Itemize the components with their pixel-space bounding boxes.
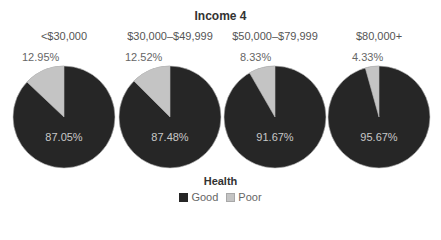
- pie-1: <$30,00012.95%87.05%: [13, 30, 115, 168]
- good-swatch-icon: [179, 193, 188, 202]
- good-value-label: 91.67%: [256, 131, 294, 143]
- legend-label-good: Good: [191, 191, 218, 203]
- legend: Good Poor: [0, 191, 441, 203]
- poor-value-label: 8.33%: [240, 51, 271, 63]
- legend-label-poor: Poor: [238, 191, 261, 203]
- poor-value-label: 12.95%: [22, 51, 60, 63]
- good-value-label: 87.48%: [151, 131, 189, 143]
- legend-item-good: Good: [179, 191, 218, 203]
- legend-title: Health: [0, 175, 441, 187]
- category-label: $80,000+: [356, 30, 402, 42]
- category-label: <$30,000: [41, 30, 87, 42]
- category-label: $50,000–$79,999: [232, 30, 318, 42]
- poor-swatch-icon: [226, 193, 235, 202]
- pie-4: $80,000+4.33%95.67%: [328, 30, 430, 168]
- poor-value-label: 4.33%: [352, 51, 383, 63]
- category-label: $30,000–$49,999: [127, 30, 213, 42]
- good-value-label: 95.67%: [360, 131, 398, 143]
- good-value-label: 87.05%: [45, 131, 83, 143]
- legend-item-poor: Poor: [226, 191, 261, 203]
- pie-3: $50,000–$79,9998.33%91.67%: [224, 30, 326, 168]
- poor-value-label: 12.52%: [125, 51, 163, 63]
- pie-2: $30,000–$49,99912.52%87.48%: [119, 30, 221, 168]
